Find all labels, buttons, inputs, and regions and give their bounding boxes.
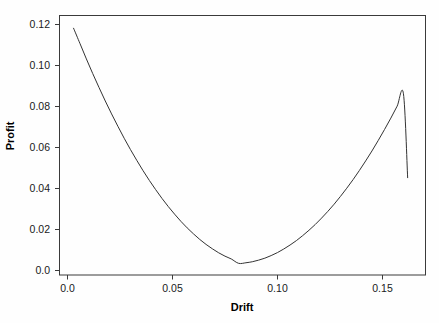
x-tick-label-1: 0.05 (162, 282, 183, 294)
y-tick-label-0: 0.0 (35, 264, 50, 276)
x-axis-title: Drift (231, 301, 254, 313)
chart-figure: 0.0 0.02 0.04 0.06 0.08 0.10 0.12 0.0 0.… (0, 0, 439, 323)
x-tick-label-3: 0.15 (372, 282, 393, 294)
y-tick-label-5: 0.10 (30, 59, 51, 71)
y-axis-title: Profit (4, 121, 16, 150)
profit-vs-drift-line-chart: 0.0 0.02 0.04 0.06 0.08 0.10 0.12 0.0 0.… (0, 0, 439, 323)
y-tick-label-3: 0.06 (30, 141, 51, 153)
x-tick-label-0: 0.0 (60, 282, 75, 294)
y-tick-label-4: 0.08 (30, 100, 51, 112)
y-tick-label-2: 0.04 (30, 182, 51, 194)
x-tick-label-2: 0.10 (267, 282, 288, 294)
y-tick-label-1: 0.02 (30, 223, 51, 235)
y-tick-label-6: 0.12 (30, 18, 51, 30)
